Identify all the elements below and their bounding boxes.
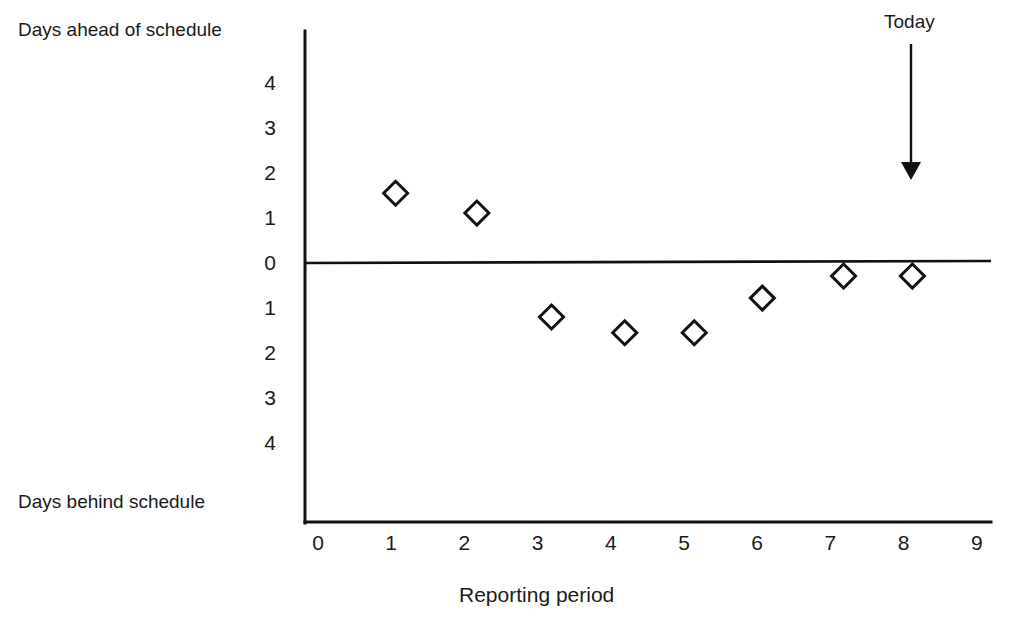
data-point-marker — [900, 264, 924, 288]
data-point-marker — [465, 201, 489, 225]
data-point-marker — [384, 181, 408, 205]
data-point-marker — [832, 264, 856, 288]
zero-reference-line — [305, 261, 991, 263]
plot-area — [0, 0, 1014, 625]
data-point-marker — [540, 305, 564, 329]
today-arrow-head — [901, 162, 921, 180]
data-point-marker — [750, 286, 774, 310]
data-point-marker — [613, 321, 637, 345]
today-arrow-icon — [901, 44, 921, 180]
schedule-variance-chart: Days ahead of schedule Days behind sched… — [0, 0, 1014, 625]
data-point-marker — [682, 321, 706, 345]
